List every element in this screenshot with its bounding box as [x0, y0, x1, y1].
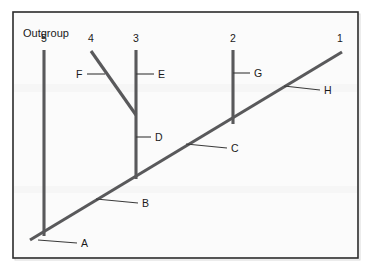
- node-label-b: B: [142, 197, 149, 209]
- node-label-e: E: [158, 68, 165, 80]
- tip-label-4: 4: [88, 32, 94, 44]
- tip-label-2: 2: [230, 32, 236, 44]
- tip-label-5: 5: [41, 32, 47, 44]
- paper-band-lower: [14, 186, 357, 193]
- node-label-h: H: [324, 84, 332, 96]
- frame-border: [13, 12, 358, 258]
- tree-diagram-canvas: Outgroup 54321 ABCDEFGH: [0, 0, 372, 271]
- phylogenetic-tree-figure: Outgroup 54321 ABCDEFGH: [0, 0, 372, 271]
- node-label-f: F: [76, 68, 82, 80]
- node-label-d: D: [155, 131, 163, 143]
- node-label-a: A: [81, 237, 88, 249]
- node-label-g: G: [254, 67, 262, 79]
- tip-label-1: 1: [337, 32, 343, 44]
- tip-label-3: 3: [133, 32, 139, 44]
- node-label-c: C: [231, 142, 239, 154]
- figure-frame: [13, 12, 360, 260]
